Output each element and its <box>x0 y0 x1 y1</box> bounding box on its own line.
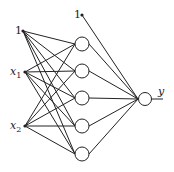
input-x1-sub: 1 <box>16 71 21 80</box>
hidden-to-output-edges <box>82 15 163 154</box>
input-to-hidden-edges <box>23 31 75 154</box>
input-x1-label: x1 <box>10 66 21 80</box>
output-y-label: y <box>158 86 164 97</box>
network-graphics <box>0 0 174 172</box>
input-x2-label: x2 <box>10 120 21 134</box>
neural-network-diagram: 1 x1 x2 1 y <box>0 0 174 172</box>
hidden-bias-label: 1 <box>74 9 81 20</box>
hidden-nodes <box>75 37 89 161</box>
input-bias-label: 1 <box>15 25 22 36</box>
output-node <box>139 93 152 106</box>
input-x2-sub: 2 <box>16 125 21 134</box>
